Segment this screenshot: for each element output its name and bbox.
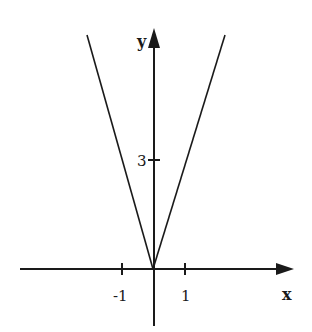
x-tick-label-1: 1 bbox=[181, 287, 191, 305]
line-right-branch bbox=[153, 35, 225, 269]
y-axis-label: y bbox=[136, 32, 147, 51]
x-axis-arrow-icon bbox=[276, 263, 294, 275]
x-axis-label: x bbox=[282, 285, 292, 304]
y-axis-arrow-icon bbox=[148, 28, 160, 48]
x-tick-label-neg1: -1 bbox=[113, 287, 128, 305]
graph: y x -1 1 3 bbox=[0, 0, 312, 332]
y-tick-label-3: 3 bbox=[137, 152, 147, 170]
